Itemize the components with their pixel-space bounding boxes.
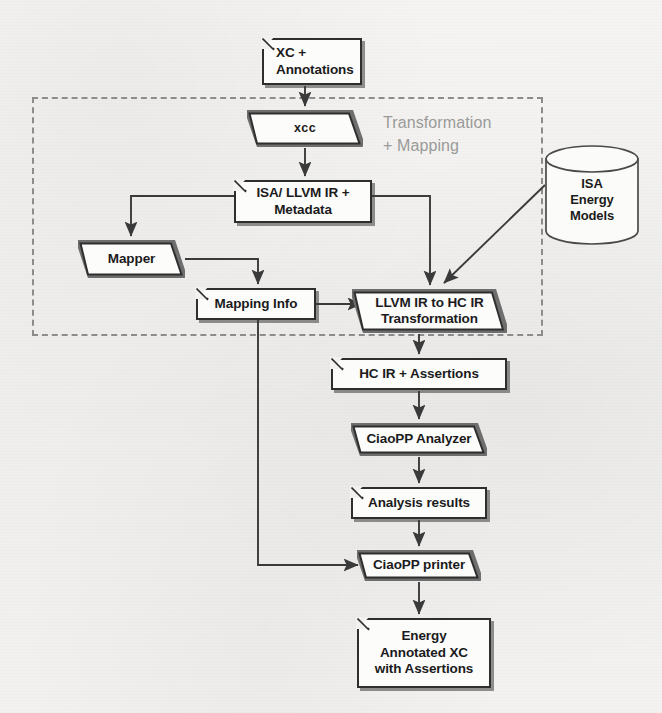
node-mapping-info[interactable]: Mapping Info	[196, 288, 316, 320]
folded-corner-icon	[234, 180, 247, 193]
node-llvm-to-hc-transform[interactable]: LLVM IR to HC IR Transformation	[352, 289, 507, 333]
folded-corner-icon	[196, 288, 209, 301]
transformation-mapping-group-label: Transformation + Mapping	[383, 111, 491, 157]
edge-mapping-info-to-printer	[258, 320, 358, 565]
flowchart-diagram: Transformation + Mapping	[0, 0, 662, 713]
node-hc-ir-assertions[interactable]: HC IR + Assertions	[331, 358, 507, 390]
node-label: HC IR + Assertions	[353, 366, 485, 382]
node-analysis-results[interactable]: Analysis results	[351, 487, 487, 519]
node-label: xcc	[288, 121, 322, 136]
node-isa-energy-models[interactable]: ISA Energy Models	[544, 145, 640, 245]
node-xc-annotations[interactable]: XC + Annotations	[262, 38, 362, 85]
node-label: Energy Annotated XC with Assertions	[369, 628, 480, 677]
node-label: ISA Energy Models	[564, 176, 620, 224]
node-label: Analysis results	[362, 495, 476, 511]
folded-corner-icon	[331, 358, 344, 371]
node-xcc[interactable]: xcc	[247, 110, 363, 147]
node-isa-llvm-ir-metadata[interactable]: ISA/ LLVM IR + Metadata	[234, 180, 372, 223]
node-label: XC + Annotations	[264, 45, 360, 78]
node-ciaopp-printer[interactable]: CiaoPP printer	[357, 550, 481, 581]
node-label: LLVM IR to HC IR Transformation	[369, 295, 489, 328]
node-label: Mapper	[102, 251, 161, 267]
node-label: Mapping Info	[209, 296, 304, 312]
node-energy-annotated-xc[interactable]: Energy Annotated XC with Assertions	[357, 618, 491, 688]
node-label: ISA/ LLVM IR + Metadata	[250, 185, 355, 218]
node-label: CiaoPP printer	[367, 557, 471, 573]
node-mapper[interactable]: Mapper	[78, 240, 185, 278]
node-label: CiaoPP Analyzer	[360, 431, 477, 447]
node-ciaopp-analyzer[interactable]: CiaoPP Analyzer	[351, 423, 487, 456]
